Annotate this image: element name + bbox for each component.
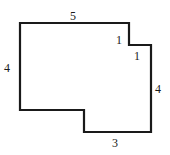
label-right: 4: [155, 82, 161, 96]
label-top: 5: [70, 9, 76, 23]
floor-plan-shape: [20, 23, 151, 132]
polygon-diagram: 5 1 1 4 4 3: [0, 0, 170, 155]
label-notch-vertical: 1: [116, 33, 122, 47]
label-left: 4: [4, 61, 10, 75]
label-bottom: 3: [112, 136, 118, 150]
label-notch-horizontal: 1: [134, 49, 140, 63]
